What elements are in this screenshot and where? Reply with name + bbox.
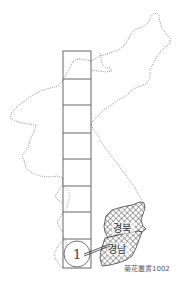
label-gyeongnam: 경남 [108,243,126,255]
caption: 菊花叢書1002 [124,263,170,273]
peninsula-outline-east [63,13,170,205]
stamp-column [63,51,91,268]
peninsula-outline [10,80,63,268]
stamp-number: 1 [73,247,81,262]
korea-map: 경북 경남 1 [0,0,187,281]
label-gyeongbuk: 경북 [113,222,131,234]
inner-border [63,186,70,250]
